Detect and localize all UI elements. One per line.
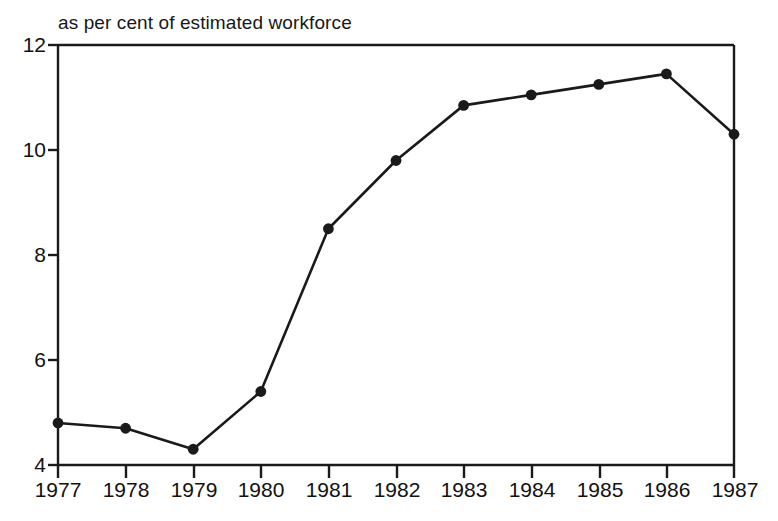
data-point-1978	[120, 423, 131, 434]
data-point-1979	[188, 444, 199, 455]
data-point-1977	[53, 418, 64, 429]
y-axis-ticks	[48, 45, 58, 465]
chart-plot-area	[0, 0, 778, 521]
data-point-1985	[593, 79, 604, 90]
data-point-1986	[661, 68, 672, 79]
data-line-series-0	[58, 74, 734, 449]
data-point-1983	[458, 100, 469, 111]
data-point-1980	[255, 386, 266, 397]
data-point-markers	[53, 68, 740, 454]
data-point-1982	[391, 155, 402, 166]
data-point-1984	[526, 89, 537, 100]
chart-container: as per cent of estimated workforce 12 10…	[0, 0, 778, 521]
data-point-1981	[323, 223, 334, 234]
data-point-1987	[729, 129, 740, 140]
x-axis-ticks	[58, 465, 734, 478]
